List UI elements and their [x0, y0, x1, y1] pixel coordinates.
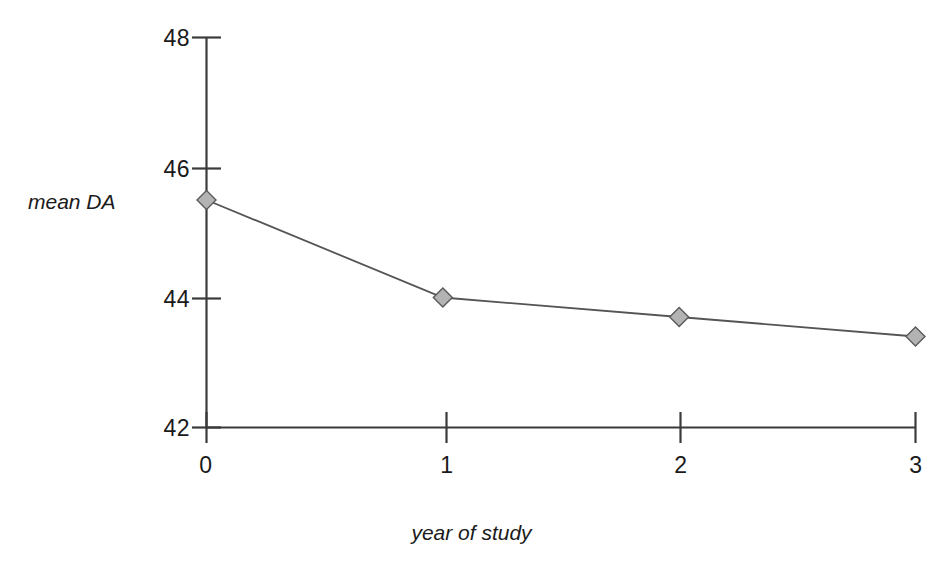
data-markers-group [197, 191, 925, 347]
x-axis-title: year of study [0, 521, 943, 545]
data-point-marker [197, 191, 216, 210]
data-line-mean-da [207, 200, 916, 337]
data-point-marker [670, 308, 689, 327]
y-tick-label-42: 42 [150, 415, 190, 442]
line-chart: 48 46 44 42 0 1 2 3 mean DA year of stud… [0, 0, 943, 584]
data-point-marker [906, 327, 925, 346]
data-point-marker [433, 288, 452, 307]
x-tick-label-3: 3 [896, 452, 936, 479]
y-tick-label-48: 48 [150, 25, 190, 52]
y-tick-label-44: 44 [150, 286, 190, 313]
x-tick-label-1: 1 [427, 452, 467, 479]
plot-area [0, 0, 943, 584]
x-tick-label-2: 2 [661, 452, 701, 479]
y-axis-title: mean DA [28, 190, 116, 214]
x-tick-label-0: 0 [186, 452, 226, 479]
y-tick-label-46: 46 [150, 156, 190, 183]
